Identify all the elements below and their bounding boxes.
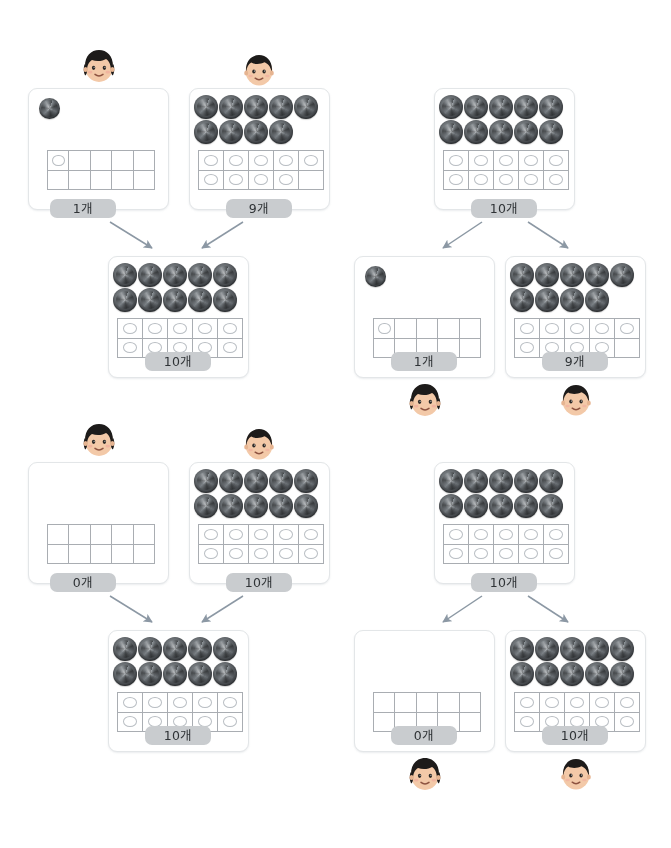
ten-frame-cell[interactable] bbox=[134, 525, 155, 545]
ten-frame-cell[interactable] bbox=[615, 319, 640, 339]
ten-frame-cell[interactable] bbox=[444, 171, 469, 191]
ten-frame-cell[interactable] bbox=[417, 319, 438, 339]
ten-frame-cell[interactable] bbox=[274, 525, 299, 545]
ten-frame-cell[interactable] bbox=[515, 693, 540, 713]
ten-frame-cell[interactable] bbox=[615, 713, 640, 733]
quantity-card[interactable] bbox=[189, 462, 330, 584]
ten-frame-cell[interactable] bbox=[48, 171, 69, 191]
ten-frame-cell[interactable] bbox=[48, 545, 69, 565]
ten-frame-cell[interactable] bbox=[69, 171, 90, 191]
ten-frame-cell[interactable] bbox=[112, 151, 133, 171]
ten-frame-cell[interactable] bbox=[299, 171, 324, 191]
ten-frame-cell[interactable] bbox=[118, 713, 143, 733]
ten-frame[interactable] bbox=[198, 150, 324, 190]
ten-frame-cell[interactable] bbox=[417, 693, 438, 713]
ten-frame-cell[interactable] bbox=[168, 693, 193, 713]
ten-frame-cell[interactable] bbox=[515, 339, 540, 359]
ten-frame-cell[interactable] bbox=[444, 151, 469, 171]
ten-frame-cell[interactable] bbox=[249, 171, 274, 191]
ten-frame-cell[interactable] bbox=[460, 319, 481, 339]
ten-frame-cell[interactable] bbox=[112, 171, 133, 191]
ten-frame-cell[interactable] bbox=[48, 151, 69, 171]
quantity-card[interactable] bbox=[434, 88, 575, 210]
ten-frame-cell[interactable] bbox=[224, 525, 249, 545]
ten-frame-cell[interactable] bbox=[134, 171, 155, 191]
ten-frame-cell[interactable] bbox=[515, 713, 540, 733]
ten-frame-cell[interactable] bbox=[544, 151, 569, 171]
ten-frame-cell[interactable] bbox=[299, 525, 324, 545]
quantity-card[interactable] bbox=[434, 462, 575, 584]
ten-frame-cell[interactable] bbox=[469, 171, 494, 191]
ten-frame-cell[interactable] bbox=[193, 693, 218, 713]
ten-frame-cell[interactable] bbox=[460, 339, 481, 359]
ten-frame[interactable] bbox=[47, 150, 155, 190]
ten-frame-cell[interactable] bbox=[460, 713, 481, 733]
ten-frame-cell[interactable] bbox=[199, 151, 224, 171]
ten-frame-cell[interactable] bbox=[299, 151, 324, 171]
ten-frame-cell[interactable] bbox=[274, 151, 299, 171]
ten-frame-cell[interactable] bbox=[444, 545, 469, 565]
ten-frame-cell[interactable] bbox=[91, 545, 112, 565]
ten-frame-cell[interactable] bbox=[224, 151, 249, 171]
ten-frame-cell[interactable] bbox=[494, 545, 519, 565]
ten-frame-cell[interactable] bbox=[48, 525, 69, 545]
ten-frame-cell[interactable] bbox=[218, 319, 243, 339]
quantity-card[interactable] bbox=[28, 462, 169, 584]
ten-frame-cell[interactable] bbox=[249, 525, 274, 545]
ten-frame-cell[interactable] bbox=[118, 339, 143, 359]
ten-frame-cell[interactable] bbox=[519, 171, 544, 191]
ten-frame-cell[interactable] bbox=[519, 151, 544, 171]
ten-frame-cell[interactable] bbox=[134, 151, 155, 171]
ten-frame-cell[interactable] bbox=[615, 339, 640, 359]
ten-frame-cell[interactable] bbox=[91, 151, 112, 171]
ten-frame-cell[interactable] bbox=[544, 545, 569, 565]
ten-frame-cell[interactable] bbox=[199, 171, 224, 191]
ten-frame-cell[interactable] bbox=[218, 693, 243, 713]
ten-frame[interactable] bbox=[47, 524, 155, 564]
ten-frame-cell[interactable] bbox=[469, 545, 494, 565]
ten-frame-cell[interactable] bbox=[112, 545, 133, 565]
ten-frame-cell[interactable] bbox=[143, 693, 168, 713]
ten-frame-cell[interactable] bbox=[544, 525, 569, 545]
ten-frame-cell[interactable] bbox=[91, 171, 112, 191]
ten-frame-cell[interactable] bbox=[590, 319, 615, 339]
ten-frame-cell[interactable] bbox=[374, 319, 395, 339]
ten-frame-cell[interactable] bbox=[274, 545, 299, 565]
ten-frame-cell[interactable] bbox=[193, 319, 218, 339]
ten-frame-cell[interactable] bbox=[519, 525, 544, 545]
ten-frame[interactable] bbox=[198, 524, 324, 564]
ten-frame-cell[interactable] bbox=[615, 693, 640, 713]
ten-frame-cell[interactable] bbox=[69, 525, 90, 545]
ten-frame-cell[interactable] bbox=[395, 319, 416, 339]
ten-frame-cell[interactable] bbox=[69, 151, 90, 171]
ten-frame-cell[interactable] bbox=[143, 319, 168, 339]
ten-frame-cell[interactable] bbox=[544, 171, 569, 191]
ten-frame-cell[interactable] bbox=[540, 319, 565, 339]
ten-frame-cell[interactable] bbox=[199, 545, 224, 565]
ten-frame[interactable] bbox=[443, 524, 569, 564]
quantity-card[interactable] bbox=[28, 88, 169, 210]
ten-frame-cell[interactable] bbox=[494, 171, 519, 191]
ten-frame-cell[interactable] bbox=[218, 339, 243, 359]
ten-frame-cell[interactable] bbox=[494, 525, 519, 545]
ten-frame-cell[interactable] bbox=[134, 545, 155, 565]
ten-frame-cell[interactable] bbox=[274, 171, 299, 191]
ten-frame-cell[interactable] bbox=[249, 545, 274, 565]
ten-frame-cell[interactable] bbox=[469, 525, 494, 545]
ten-frame-cell[interactable] bbox=[168, 319, 193, 339]
ten-frame-cell[interactable] bbox=[395, 693, 416, 713]
ten-frame-cell[interactable] bbox=[444, 525, 469, 545]
ten-frame-cell[interactable] bbox=[565, 693, 590, 713]
ten-frame-cell[interactable] bbox=[224, 545, 249, 565]
ten-frame-cell[interactable] bbox=[112, 525, 133, 545]
ten-frame-cell[interactable] bbox=[519, 545, 544, 565]
ten-frame-cell[interactable] bbox=[438, 319, 459, 339]
ten-frame-cell[interactable] bbox=[199, 525, 224, 545]
ten-frame-cell[interactable] bbox=[91, 525, 112, 545]
ten-frame-cell[interactable] bbox=[374, 693, 395, 713]
ten-frame-cell[interactable] bbox=[494, 151, 519, 171]
ten-frame-cell[interactable] bbox=[218, 713, 243, 733]
ten-frame-cell[interactable] bbox=[224, 171, 249, 191]
quantity-card[interactable] bbox=[189, 88, 330, 210]
ten-frame-cell[interactable] bbox=[438, 693, 459, 713]
